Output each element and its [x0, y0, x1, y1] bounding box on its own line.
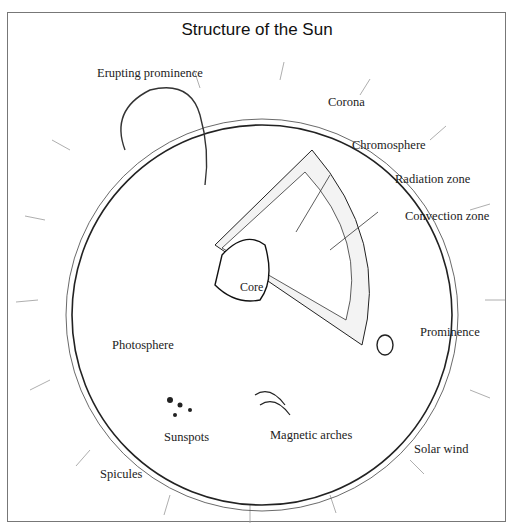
label-erupting-prominence: Erupting prominence: [97, 66, 203, 81]
magnetic-arches: [255, 392, 290, 415]
label-spicules: Spicules: [100, 467, 142, 482]
label-solar-wind: Solar wind: [414, 442, 469, 457]
label-sunspots: Sunspots: [164, 430, 209, 445]
erupting-prominence-shape: [121, 88, 207, 185]
label-corona: Corona: [328, 95, 365, 110]
label-photosphere: Photosphere: [112, 338, 174, 353]
label-convection-zone: Convection zone: [405, 209, 489, 224]
sunspots: [167, 397, 192, 417]
prominence-shape: [377, 335, 393, 355]
label-chromosphere: Chromosphere: [352, 138, 426, 153]
label-core: Core: [240, 280, 263, 295]
label-radiation-zone: Radiation zone: [395, 172, 470, 187]
label-magnetic-arches: Magnetic arches: [270, 428, 352, 443]
label-prominence: Prominence: [420, 325, 480, 340]
